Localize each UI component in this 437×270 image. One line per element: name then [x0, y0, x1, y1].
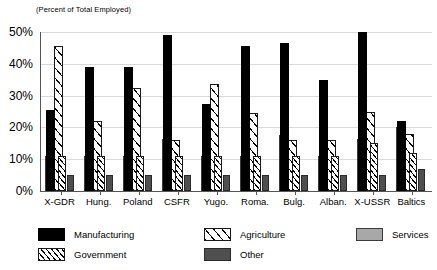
- chart-subtitle: (Percent of Total Employed): [36, 5, 131, 14]
- x-axis-label-alban: Alban.: [314, 196, 353, 210]
- bar-group-bulg: [276, 32, 315, 191]
- x-tick-bulg: [295, 191, 296, 195]
- legend-item-other[interactable]: Other: [204, 248, 264, 261]
- bar-x-gdr-government[interactable]: [58, 156, 66, 191]
- gridline-50: [41, 32, 432, 33]
- bar-hung-other[interactable]: [106, 175, 113, 191]
- bar-x-gdr-manufacturing[interactable]: [46, 110, 55, 191]
- bars-bulg: [280, 32, 310, 191]
- bars-alban: [319, 32, 349, 191]
- legend-label-manufacturing: Manufacturing: [74, 229, 134, 240]
- bars-x-ussr: [358, 32, 388, 191]
- legend-label-other: Other: [240, 249, 264, 260]
- bar-bulg-other[interactable]: [301, 175, 308, 191]
- y-tick-label-20: 20%: [0, 121, 33, 133]
- x-tick-x-ussr: [373, 191, 374, 195]
- bar-roma-government[interactable]: [253, 156, 261, 191]
- x-axis-label-baltics: Baltics: [392, 196, 431, 210]
- legend-item-services[interactable]: Services: [356, 228, 428, 241]
- legend-item-manufacturing[interactable]: Manufacturing: [38, 228, 134, 241]
- bar-bulg-government[interactable]: [292, 156, 300, 191]
- bar-yugo-government[interactable]: [214, 156, 222, 191]
- y-tick-label-30: 30%: [0, 90, 33, 102]
- bar-baltics-government[interactable]: [409, 153, 417, 191]
- bar-alban-government[interactable]: [331, 156, 339, 191]
- gridline-40: [41, 64, 432, 65]
- bar-roma-manufacturing[interactable]: [241, 46, 250, 191]
- y-tick-label-50: 50%: [0, 26, 33, 38]
- bar-alban-other[interactable]: [340, 175, 347, 191]
- bar-x-ussr-other[interactable]: [379, 175, 386, 191]
- bar-yugo-manufacturing[interactable]: [202, 104, 211, 191]
- x-axis-label-csfr: CSFR: [157, 196, 196, 210]
- x-axis-label-bulg: Bulg.: [275, 196, 314, 210]
- bar-group-x-gdr: [41, 32, 80, 191]
- y-tick-label-0: 0%: [0, 185, 33, 197]
- legend-swatch-manufacturing: [38, 228, 65, 241]
- legend-swatch-government: [38, 248, 65, 261]
- x-axis-labels: X-GDRHung.PolandCSFRYugo.Roma.Bulg.Alban…: [40, 196, 431, 210]
- bar-group-yugo: [197, 32, 236, 191]
- x-axis-label-x-gdr: X-GDR: [40, 196, 79, 210]
- legend-label-government: Government: [74, 249, 126, 260]
- x-axis-label-hung: Hung.: [79, 196, 118, 210]
- legend-swatch-services: [356, 228, 383, 241]
- x-tick-hung: [100, 191, 101, 195]
- bars-yugo: [202, 32, 232, 191]
- chart-legend: ManufacturingAgricultureServicesGovernme…: [38, 228, 430, 266]
- bar-x-ussr-manufacturing[interactable]: [358, 32, 367, 191]
- bar-hung-manufacturing[interactable]: [85, 67, 94, 191]
- bar-group-hung: [80, 32, 119, 191]
- bar-group-csfr: [158, 32, 197, 191]
- x-tick-yugo: [217, 191, 218, 195]
- bar-x-ussr-government[interactable]: [370, 143, 378, 191]
- gridline-30: [41, 96, 432, 97]
- x-tick-roma: [256, 191, 257, 195]
- bar-roma-other[interactable]: [262, 175, 269, 191]
- chart-page: (Percent of Total Employed) 0%10%20%30%4…: [0, 0, 437, 270]
- legend-label-services: Services: [392, 229, 428, 240]
- bar-hung-government[interactable]: [97, 156, 105, 191]
- x-axis-label-poland: Poland: [118, 196, 157, 210]
- legend-item-agriculture[interactable]: Agriculture: [204, 228, 285, 241]
- y-tick-label-10: 10%: [0, 153, 33, 165]
- y-tick-label-40: 40%: [0, 58, 33, 70]
- legend-swatch-agriculture: [204, 228, 231, 241]
- bar-group-poland: [119, 32, 158, 191]
- bar-groups: [41, 32, 432, 191]
- bars-roma: [241, 32, 271, 191]
- x-tick-alban: [334, 191, 335, 195]
- bar-yugo-other[interactable]: [223, 175, 230, 191]
- legend-item-government[interactable]: Government: [38, 248, 126, 261]
- x-axis-label-roma: Roma.: [235, 196, 274, 210]
- x-axis-label-x-ussr: X-USSR: [353, 196, 392, 210]
- bar-csfr-other[interactable]: [184, 175, 191, 191]
- bars-x-gdr: [46, 32, 76, 191]
- bars-poland: [124, 32, 154, 191]
- bar-csfr-government[interactable]: [175, 156, 183, 191]
- x-tick-csfr: [178, 191, 179, 195]
- legend-swatch-other: [204, 248, 231, 261]
- y-axis-labels: 0%10%20%30%40%50%: [0, 32, 36, 191]
- plot-area: [40, 32, 432, 192]
- x-axis-label-yugo: Yugo.: [196, 196, 235, 210]
- bar-baltics-other[interactable]: [418, 169, 425, 191]
- bars-baltics: [397, 32, 427, 191]
- x-tick-x-gdr: [61, 191, 62, 195]
- bar-group-x-ussr: [354, 32, 393, 191]
- bar-group-roma: [236, 32, 275, 191]
- bars-hung: [85, 32, 115, 191]
- legend-label-agriculture: Agriculture: [240, 229, 285, 240]
- bar-baltics-manufacturing[interactable]: [397, 121, 406, 191]
- bar-alban-manufacturing[interactable]: [319, 80, 328, 191]
- bar-group-baltics: [393, 32, 432, 191]
- bar-csfr-manufacturing[interactable]: [163, 35, 172, 191]
- bar-group-alban: [315, 32, 354, 191]
- x-tick-poland: [139, 191, 140, 195]
- bar-poland-other[interactable]: [145, 175, 152, 191]
- bar-poland-manufacturing[interactable]: [124, 67, 133, 191]
- bar-x-gdr-other[interactable]: [67, 175, 74, 191]
- bar-bulg-manufacturing[interactable]: [280, 43, 289, 191]
- bar-poland-government[interactable]: [136, 156, 144, 191]
- bars-csfr: [163, 32, 193, 191]
